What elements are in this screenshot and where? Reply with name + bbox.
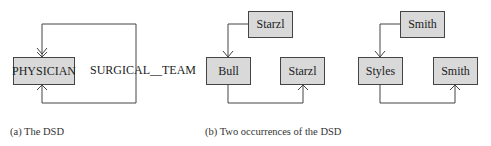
occurrence-1-owner: Starzl <box>248 11 293 38</box>
relationship-label: SURGICAL__TEAM <box>90 63 196 78</box>
occurrence-2-member: Styles <box>358 57 403 85</box>
entity-physician: PHYSICIAN <box>13 57 75 85</box>
occurrence-1-next: Starzl <box>280 57 325 85</box>
occurrence-2-owner: Smith <box>400 11 445 38</box>
occurrence-2-next: Smith <box>433 57 478 85</box>
caption-a: (a) The DSD <box>10 126 64 137</box>
occurrence-1-member: Bull <box>206 57 251 85</box>
caption-b: (b) Two occurrences of the DSD <box>205 126 341 137</box>
